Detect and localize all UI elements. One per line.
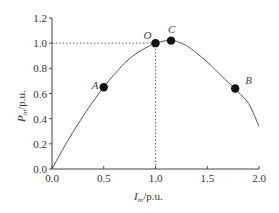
point-c (167, 36, 175, 44)
y-axis-label: Pin/p.u. (15, 90, 29, 123)
y-tick-label: 0.6 (33, 88, 47, 100)
point-label-c: C (168, 23, 176, 35)
point-label-b: B (245, 74, 252, 86)
y-tick-label: 0.2 (33, 138, 47, 150)
x-tick-label: 1.5 (200, 172, 214, 184)
y-tick-label: 1.0 (33, 37, 47, 49)
y-tick-label: 0.8 (33, 62, 47, 74)
x-tick-label: 0.0 (45, 172, 59, 184)
point-a (100, 83, 108, 91)
x-tick-label: 1.0 (149, 172, 163, 184)
x-axis-label: Iin/p.u. (133, 190, 163, 204)
reference-lines (52, 43, 156, 169)
point-label-o: O (144, 29, 152, 41)
chart: 0.00.20.40.60.81.01.20.00.51.01.52.0 AOC… (0, 0, 279, 213)
x-tick-label: 2.0 (252, 172, 266, 184)
y-tick-label: 0.4 (33, 113, 47, 125)
point-o (151, 39, 159, 47)
point-b (231, 84, 239, 92)
y-tick-label: 1.2 (33, 12, 47, 24)
point-label-a: A (91, 79, 99, 91)
x-tick-label: 0.5 (97, 172, 111, 184)
